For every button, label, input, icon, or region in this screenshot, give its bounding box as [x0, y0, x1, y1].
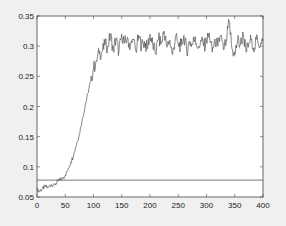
plot-area: [37, 16, 263, 197]
x-tick-label: 350: [228, 201, 242, 210]
x-tick-label: 300: [200, 201, 214, 210]
line-chart: 0.050.10.150.20.250.30.35 05010015020025…: [0, 0, 286, 226]
y-tick-label: 0.05: [18, 193, 34, 202]
x-tick-label: 400: [256, 201, 270, 210]
x-tick-label: 50: [61, 201, 70, 210]
x-tick-label: 150: [115, 201, 129, 210]
y-tick-label: 0.35: [18, 12, 34, 21]
y-tick-label: 0.1: [23, 163, 35, 172]
x-tick-label: 0: [35, 201, 40, 210]
y-tick-label: 0.2: [23, 103, 35, 112]
x-tick-label: 100: [87, 201, 101, 210]
x-tick-label: 250: [172, 201, 186, 210]
y-tick-label: 0.15: [18, 133, 34, 142]
y-tick-label: 0.3: [23, 42, 35, 51]
y-tick-label: 0.25: [18, 72, 34, 81]
x-tick-label: 200: [143, 201, 157, 210]
